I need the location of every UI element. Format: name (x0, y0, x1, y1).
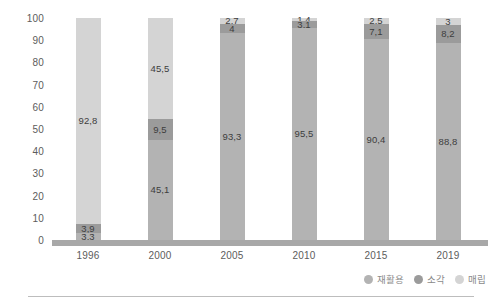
bar-segment[interactable]: 90,4 (364, 39, 389, 240)
bottom-divider (28, 296, 474, 297)
y-axis-tick: 50 (32, 124, 44, 135)
bar-segment-value: 9,5 (153, 125, 167, 135)
bar-column[interactable]: 2,7493,3 (196, 18, 268, 240)
bar-segment-value: 93,3 (223, 132, 242, 142)
axis-baseline (52, 240, 488, 246)
bar-column[interactable]: 38,288,8 (412, 18, 484, 240)
y-axis-tick: 0 (38, 235, 44, 246)
bar-stack: 38,288,8 (436, 18, 461, 240)
legend-label: 소각 (427, 272, 445, 286)
bar-segment[interactable]: 88,8 (436, 43, 461, 240)
chart-legend: 재활용소각매립 (364, 272, 486, 286)
legend-swatch-icon (364, 275, 373, 284)
bar-segment-value: 95,5 (295, 129, 314, 139)
bar-segment[interactable]: 45,5 (148, 18, 173, 119)
bar-segment[interactable]: 92,8 (76, 18, 101, 224)
legend-item[interactable]: 재활용 (364, 272, 404, 286)
x-axis: 199620002005201020152019 (52, 250, 484, 266)
legend-item[interactable]: 소각 (414, 272, 445, 286)
bar-stack: 1,43,195,5 (292, 18, 317, 240)
legend-swatch-icon (455, 275, 464, 284)
bar-segment[interactable]: 45,1 (148, 140, 173, 240)
legend-item[interactable]: 매립 (455, 272, 486, 286)
bar-column[interactable]: 92,83,93,3 (52, 18, 124, 240)
bar-segment-value: 4 (229, 24, 234, 34)
bar-segment[interactable]: 4 (220, 24, 245, 33)
bar-segment[interactable]: 3 (436, 18, 461, 25)
y-axis-tick: 30 (32, 168, 44, 179)
y-axis-tick: 60 (32, 101, 44, 112)
bar-segment[interactable]: 3,1 (292, 21, 317, 28)
bar-segment[interactable]: 3,3 (76, 233, 101, 240)
bar-segment-value: 7,1 (369, 27, 383, 37)
bar-segment-value: 90,4 (367, 135, 386, 145)
x-axis-tick: 2019 (412, 250, 484, 266)
bar-segment-value: 45,5 (151, 64, 170, 74)
x-axis-tick: 2010 (268, 250, 340, 266)
y-axis-tick: 80 (32, 57, 44, 68)
x-axis-tick: 2005 (196, 250, 268, 266)
y-axis-tick: 90 (32, 35, 44, 46)
plot-bars: 92,83,93,345,59,545,12,7493,31,43,195,52… (52, 18, 484, 240)
bar-segment-value: 8,2 (441, 29, 455, 39)
bar-segment[interactable]: 8,2 (436, 25, 461, 43)
legend-label: 재활용 (377, 272, 404, 286)
y-axis: 0102030405060708090100 (0, 18, 44, 240)
bar-segment[interactable]: 7,1 (364, 24, 389, 40)
y-axis-tick: 10 (32, 212, 44, 223)
y-axis-tick: 100 (27, 13, 44, 24)
stacked-bar-chart: 0102030405060708090100 92,83,93,345,59,5… (0, 0, 494, 307)
bar-segment-value: 45,1 (151, 185, 170, 195)
bar-segment[interactable]: 93,3 (220, 33, 245, 240)
y-axis-tick: 20 (32, 190, 44, 201)
bar-stack: 92,83,93,3 (76, 18, 101, 240)
x-axis-tick: 2015 (340, 250, 412, 266)
bar-column[interactable]: 45,59,545,1 (124, 18, 196, 240)
bar-segment-value: 88,8 (439, 137, 458, 147)
x-axis-tick: 2000 (124, 250, 196, 266)
bar-stack: 45,59,545,1 (148, 18, 173, 240)
y-axis-tick: 40 (32, 146, 44, 157)
bar-column[interactable]: 2,57,190,4 (340, 18, 412, 240)
bar-segment[interactable]: 95,5 (292, 28, 317, 240)
bar-segment[interactable]: 9,5 (148, 119, 173, 140)
bar-column[interactable]: 1,43,195,5 (268, 18, 340, 240)
legend-swatch-icon (414, 275, 423, 284)
y-axis-tick: 70 (32, 79, 44, 90)
x-axis-tick: 1996 (52, 250, 124, 266)
legend-label: 매립 (468, 272, 486, 286)
bar-segment-value: 92,8 (79, 116, 98, 126)
bar-stack: 2,7493,3 (220, 18, 245, 240)
bar-stack: 2,57,190,4 (364, 18, 389, 240)
